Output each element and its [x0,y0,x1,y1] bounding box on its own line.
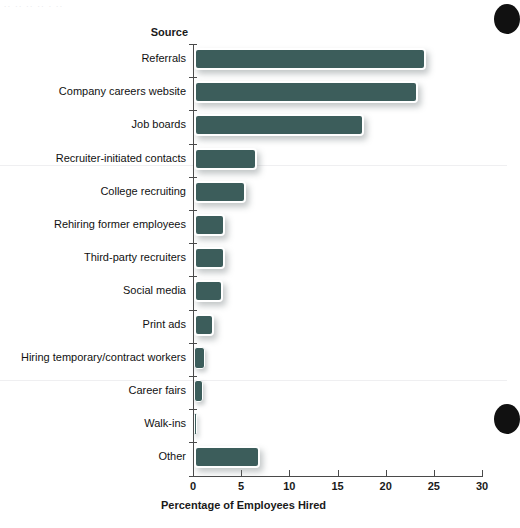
bar[interactable] [194,148,257,170]
category-label: Third-party recruiters [0,251,186,263]
bar-row: Third-party recruiters [0,243,507,275]
bar-row: Print ads [0,310,507,342]
category-label: Rehiring former employees [0,218,186,230]
category-label: Referrals [0,52,186,64]
category-label: Social media [0,284,186,296]
category-label: Job boards [0,118,186,130]
category-label: Career fairs [0,384,186,396]
bar[interactable] [194,181,246,203]
bar[interactable] [194,247,225,269]
bar[interactable] [194,314,214,336]
category-label: Print ads [0,318,186,330]
x-axis-tick-label: 20 [366,480,406,492]
bar-row: Company careers website [0,77,507,109]
bar[interactable] [194,413,197,435]
bar-row: Recruiter-initiated contacts [0,144,507,176]
x-axis-tick-label: 15 [318,480,358,492]
bar-row: Hiring temporary/contract workers [0,343,507,375]
category-label: College recruiting [0,185,186,197]
bar[interactable] [194,214,225,236]
bar[interactable] [194,280,223,302]
bar-row: Walk-ins [0,409,507,441]
bar[interactable] [194,380,203,402]
bar[interactable] [194,81,418,103]
category-label: Company careers website [0,85,186,97]
bar-row: Other [0,442,507,474]
bar[interactable] [194,48,426,70]
category-label: Hiring temporary/contract workers [0,351,186,363]
category-label: Recruiter-initiated contacts [0,152,186,164]
category-label: Other [0,450,186,462]
y-axis-title: Source [0,26,188,38]
x-axis-title: Percentage of Employees Hired [0,499,487,511]
x-axis-tick-label: 25 [414,480,454,492]
bar-row: Social media [0,276,507,308]
bar[interactable] [194,347,205,369]
bar-row: Job boards [0,110,507,142]
bar[interactable] [194,114,364,136]
bar-row: Referrals [0,44,507,76]
category-label: Walk-ins [0,417,186,429]
x-axis-tick-label: 10 [269,480,309,492]
x-axis-tick-label: 30 [462,480,502,492]
bar-row: Rehiring former employees [0,210,507,242]
bar[interactable] [194,446,260,468]
x-axis-tick-label: 0 [173,480,213,492]
bar-row: Career fairs [0,376,507,408]
bar-row: College recruiting [0,177,507,209]
x-axis-tick-label: 5 [221,480,261,492]
